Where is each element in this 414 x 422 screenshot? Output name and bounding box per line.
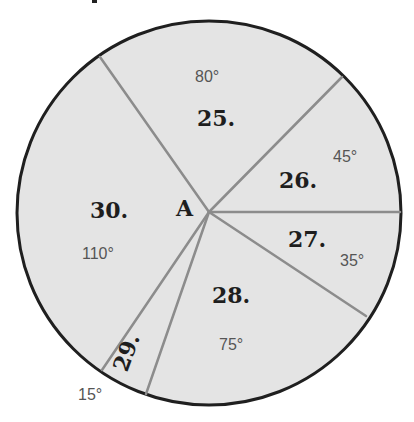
sector-28-angle: 75°: [219, 336, 243, 353]
sector-27-number: 27.: [288, 226, 326, 252]
sector-26-number: 26.: [279, 167, 317, 193]
sector-29-angle: 15°: [78, 386, 102, 403]
sector-25-angle: 80°: [195, 68, 219, 85]
sector-26-angle: 45°: [333, 148, 357, 165]
sector-30-angle: 110°: [82, 245, 114, 262]
sector-28-number: 28.: [212, 282, 250, 308]
center-point-label: A: [175, 195, 194, 221]
sector-27-angle: 35°: [340, 252, 364, 269]
sector-30-number: 30.: [90, 197, 128, 223]
sector-25-number: 25.: [197, 105, 235, 131]
circle-angle-diagram: A 80° 25. 45° 26. 27. 35° 28. 75° 29. 15…: [0, 0, 414, 422]
